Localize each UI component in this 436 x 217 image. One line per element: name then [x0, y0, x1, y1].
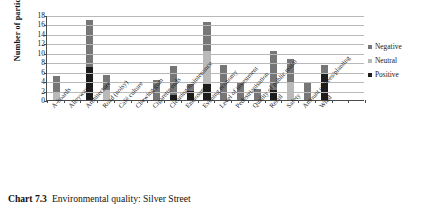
legend-label: Negative: [375, 43, 402, 50]
bar-group[interactable]: [137, 15, 144, 100]
x-tick-mark: [281, 100, 282, 103]
y-tick-mark: [44, 35, 47, 36]
chart-legend: NegativeNeutralPositive: [368, 40, 434, 82]
x-tick-mark: [47, 100, 48, 103]
bar-group[interactable]: [270, 15, 277, 100]
y-tick-mark: [44, 44, 47, 45]
y-tick-mark: [44, 63, 47, 64]
bar-segment-neutral: [203, 51, 210, 84]
grid-line: [47, 54, 364, 55]
legend-swatch-icon: [368, 59, 372, 63]
x-tick-mark: [365, 100, 366, 103]
caption-number: Chart 7.3: [8, 193, 47, 204]
grid-line: [47, 16, 364, 17]
x-tick-mark: [131, 100, 132, 103]
x-tick-mark: [315, 100, 316, 103]
plot-area: 024681012141618: [46, 16, 364, 101]
bar-segment-positive: [321, 73, 328, 100]
bar-group[interactable]: [187, 15, 194, 100]
bar-group[interactable]: [170, 15, 177, 100]
x-tick-mark: [198, 100, 199, 103]
x-tick-mark: [97, 100, 98, 103]
legend-item[interactable]: Neutral: [368, 54, 434, 68]
x-tick-mark: [348, 100, 349, 103]
bar-group[interactable]: [304, 15, 311, 100]
bar-segment-negative: [53, 76, 60, 93]
x-tick-mark: [248, 100, 249, 103]
bar-group[interactable]: [220, 15, 227, 100]
bar-segment-negative: [203, 22, 210, 51]
bar-segment-positive: [170, 95, 177, 100]
bar-group[interactable]: [103, 15, 110, 100]
bar-group[interactable]: [53, 15, 60, 100]
x-tick-mark: [147, 100, 148, 103]
x-tick-mark: [332, 100, 333, 103]
grid-line: [47, 63, 364, 64]
x-tick-mark: [80, 100, 81, 103]
legend-label: Neutral: [375, 57, 397, 64]
caption-text: Environmental quality: Silver Street: [52, 193, 191, 204]
y-tick-mark: [44, 54, 47, 55]
bar-segment-negative: [254, 89, 261, 100]
bar-series-container: [47, 16, 364, 100]
legend-swatch-icon: [368, 73, 372, 77]
x-tick-mark: [298, 100, 299, 103]
bar-group[interactable]: [237, 15, 244, 100]
y-tick-mark: [44, 16, 47, 17]
x-tick-mark: [231, 100, 232, 103]
grid-line: [47, 82, 364, 83]
bar-group[interactable]: [153, 15, 160, 100]
legend-swatch-icon: [368, 45, 372, 49]
grid-line: [47, 92, 364, 93]
x-tick-mark: [114, 100, 115, 103]
y-tick-mark: [44, 25, 47, 26]
x-tick-mark: [214, 100, 215, 103]
bar-group[interactable]: [321, 15, 328, 100]
bar-group[interactable]: [70, 15, 77, 100]
y-axis-title: Number of participants: [13, 0, 27, 67]
bar-group[interactable]: [203, 15, 210, 100]
bar-group[interactable]: [287, 15, 294, 100]
bar-segment-neutral: [53, 93, 60, 100]
bar-segment-negative: [270, 51, 277, 90]
legend-label: Positive: [375, 71, 399, 78]
x-tick-mark: [265, 100, 266, 103]
y-tick-mark: [44, 73, 47, 74]
x-tick-mark: [164, 100, 165, 103]
bar-segment-negative: [187, 84, 194, 90]
grid-line: [47, 44, 364, 45]
x-tick-mark: [64, 100, 65, 103]
legend-item[interactable]: Negative: [368, 40, 434, 54]
legend-item[interactable]: Positive: [368, 68, 434, 82]
grid-line: [47, 35, 364, 36]
bar-group[interactable]: [86, 15, 93, 100]
y-tick-mark: [44, 82, 47, 83]
chart-figure: Number of participants 024681012141618 A…: [0, 0, 436, 217]
grid-line: [47, 25, 364, 26]
x-tick-mark: [181, 100, 182, 103]
grid-line: [47, 73, 364, 74]
bar-group[interactable]: [120, 15, 127, 100]
bar-group[interactable]: [254, 15, 261, 100]
figure-caption: Chart 7.3Environmental quality: Silver S…: [8, 193, 191, 204]
y-tick-mark: [44, 92, 47, 93]
